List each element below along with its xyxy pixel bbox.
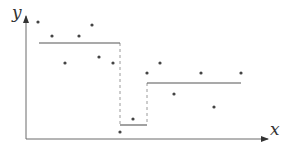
data-point: [97, 55, 100, 58]
y-axis-label: y: [11, 2, 22, 22]
split-lines: [120, 43, 147, 125]
data-point: [212, 105, 215, 108]
data-point: [90, 23, 93, 26]
data-point: [111, 61, 114, 64]
data-point: [63, 61, 66, 64]
data-point: [36, 20, 39, 23]
data-point: [172, 92, 175, 95]
step-function-diagram: y x: [0, 0, 290, 147]
data-point: [199, 71, 202, 74]
data-point: [158, 61, 161, 64]
data-point: [239, 71, 242, 74]
data-point: [131, 117, 134, 120]
x-axis-label: x: [270, 119, 280, 139]
data-points: [36, 20, 242, 133]
step-segments: [39, 43, 241, 125]
data-point: [118, 130, 121, 133]
data-point: [145, 71, 148, 74]
data-point: [77, 34, 80, 37]
data-point: [50, 34, 53, 37]
